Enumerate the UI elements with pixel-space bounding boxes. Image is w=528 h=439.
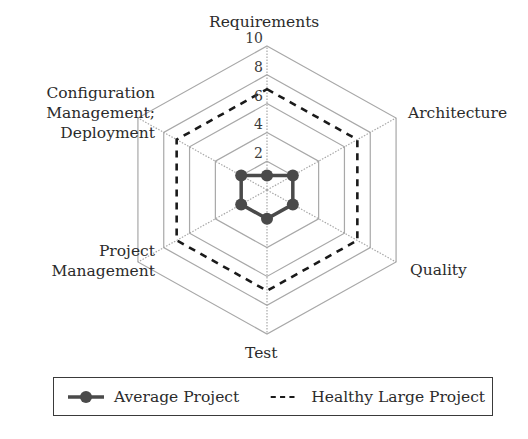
grid-spoke [267,118,396,190]
average-project-marker [261,213,273,225]
average-project-marker [287,198,299,210]
axis-label-test: Test [245,343,278,363]
axis-label-architecture: Architecture [408,103,507,123]
legend-item-healthy-large-project: Healthy Large Project [269,388,485,406]
axis-label-line: Deployment [46,123,155,143]
solid-line-marker-icon [66,390,106,404]
radial-tick-label: 2 [254,146,263,160]
axis-label-requirements: Requirements [209,12,319,32]
grid-spoke [267,190,396,262]
legend-label: Healthy Large Project [311,388,485,406]
axis-label-project-management: Project Management [51,241,155,281]
legend-label: Average Project [114,388,239,406]
legend-item-average-project: Average Project [66,388,239,406]
radial-tick-label: 6 [254,89,263,103]
grid-spoke [138,118,267,190]
radial-tick-label: 8 [254,60,263,74]
axis-label-line: Configuration [46,83,155,103]
radar-chart [0,0,528,439]
average-project-marker [287,170,299,182]
axis-label-configuration-management: Configuration Management; Deployment [46,83,155,143]
axis-label-line: Management; [46,103,155,123]
axis-label-quality: Quality [410,260,467,280]
average-project-marker [235,170,247,182]
radial-tick-label: 10 [245,31,263,45]
dashed-line-icon [269,390,303,404]
radial-tick-label: 4 [254,117,263,131]
grid-spoke [138,190,267,262]
average-project-marker [261,170,273,182]
chart-legend: Average Project Healthy Large Project [53,377,493,416]
average-project-marker [235,198,247,210]
axis-label-line: Management [51,261,155,281]
axis-label-line: Project [51,241,155,261]
